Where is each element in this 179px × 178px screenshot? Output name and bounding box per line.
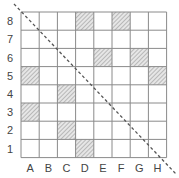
row-labels: 87654321: [7, 15, 13, 154]
row-label-5: 5: [7, 70, 13, 82]
shaded-cell-h5: [148, 67, 166, 85]
column-label-h: H: [154, 162, 162, 174]
shaded-cell-d8: [76, 12, 94, 30]
row-label-6: 6: [7, 52, 13, 64]
shaded-cell-a5: [21, 67, 39, 85]
column-label-e: E: [99, 162, 106, 174]
column-label-g: G: [135, 162, 144, 174]
shaded-cell-c4: [57, 85, 75, 103]
row-label-1: 1: [7, 143, 13, 155]
shaded-cell-a3: [21, 103, 39, 121]
row-label-8: 8: [7, 15, 13, 27]
row-label-3: 3: [7, 106, 13, 118]
diagonal-dashed-line: [14, 4, 176, 174]
shaded-cell-f8: [112, 12, 130, 30]
shaded-cell-c2: [57, 121, 75, 139]
row-label-4: 4: [7, 88, 13, 100]
row-label-2: 2: [7, 124, 13, 136]
column-label-b: B: [45, 162, 52, 174]
column-labels: ABCDEFGH: [26, 162, 161, 174]
row-label-7: 7: [7, 33, 13, 45]
shaded-cell-g6: [130, 48, 148, 66]
shaded-cell-d1: [76, 139, 94, 157]
column-label-d: D: [81, 162, 89, 174]
column-label-a: A: [26, 162, 34, 174]
column-label-c: C: [63, 162, 71, 174]
shaded-cell-e6: [94, 48, 112, 66]
grid-diagram: 87654321 ABCDEFGH: [0, 0, 179, 178]
column-label-f: F: [118, 162, 125, 174]
